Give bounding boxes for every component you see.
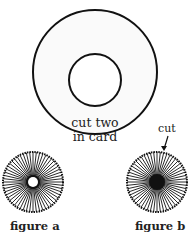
figure-b-pompom [127, 152, 187, 212]
cut-arrow-icon [161, 136, 168, 151]
card-label-line1: cut two [55, 116, 135, 130]
figure-a-caption: figure a [10, 219, 60, 233]
figure-b-caption: figure b [135, 219, 185, 233]
figure-a-pompom [3, 152, 63, 212]
cut-annotation: cut [158, 122, 176, 135]
card-label-line2: in card [55, 130, 135, 144]
